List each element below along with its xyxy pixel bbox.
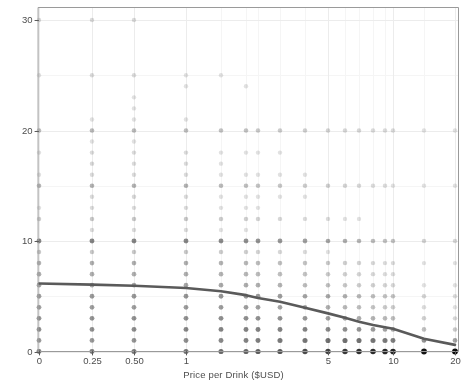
x-axis-title: Price per Drink ($USD) <box>0 369 467 380</box>
y-axis-title: Hypothetical Drinks Purchased <box>0 0 14 389</box>
plot-area <box>0 0 467 389</box>
scatter-chart: Price per Drink ($USD) Hypothetical Drin… <box>0 0 467 389</box>
